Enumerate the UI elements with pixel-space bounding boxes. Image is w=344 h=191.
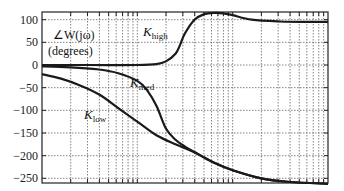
y-tick-label: −250 bbox=[13, 171, 38, 185]
y-tick-label: −100 bbox=[13, 103, 38, 117]
y-axis-title-line2: (degrees) bbox=[48, 44, 93, 58]
y-axis-title-line1: ∠W(jω) bbox=[53, 28, 95, 42]
label-k-high: Khigh bbox=[142, 24, 168, 41]
y-tick-label: −200 bbox=[13, 149, 38, 163]
curve-k-med bbox=[42, 66, 328, 183]
y-tick-label: −150 bbox=[13, 126, 38, 140]
phase-chart: 100500−50−100−150−200−250 KhighKmedKlow … bbox=[0, 0, 344, 191]
label-k-med: Kmed bbox=[129, 75, 155, 92]
curve-k-low bbox=[42, 74, 328, 184]
curve-labels: KhighKmedKlow bbox=[83, 24, 168, 124]
y-tick-label: 100 bbox=[20, 13, 38, 27]
y-axis-ticks: 100500−50−100−150−200−250 bbox=[13, 13, 38, 186]
y-tick-label: −50 bbox=[19, 81, 38, 95]
y-tick-label: 50 bbox=[26, 35, 38, 49]
y-tick-label: 0 bbox=[32, 58, 38, 72]
label-k-low: Klow bbox=[83, 107, 107, 124]
